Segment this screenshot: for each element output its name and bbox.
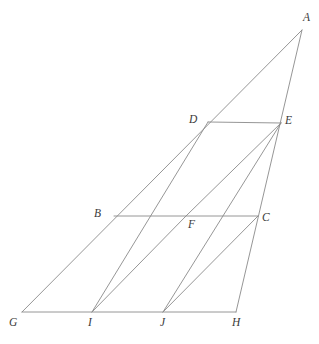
segment-F-E-diagonal	[186, 123, 281, 216]
point-label-G: G	[9, 317, 17, 329]
point-label-D: D	[189, 114, 197, 126]
figure-canvas	[0, 0, 319, 344]
segment-J-C-diagonal	[163, 216, 258, 312]
geometry-figure: ABCDEFGHIJ	[0, 0, 319, 344]
segment-H-A-edge	[236, 30, 302, 312]
point-label-B: B	[94, 208, 101, 220]
segment-D-E-horizontal	[208, 122, 281, 123]
point-label-J: J	[160, 317, 165, 329]
point-label-H: H	[232, 317, 240, 329]
point-label-E: E	[285, 115, 292, 127]
point-label-F: F	[188, 219, 195, 231]
point-label-A: A	[303, 12, 310, 24]
segment-G-A-diagonal	[22, 30, 302, 312]
point-label-I: I	[88, 317, 92, 329]
point-label-C: C	[262, 212, 270, 224]
